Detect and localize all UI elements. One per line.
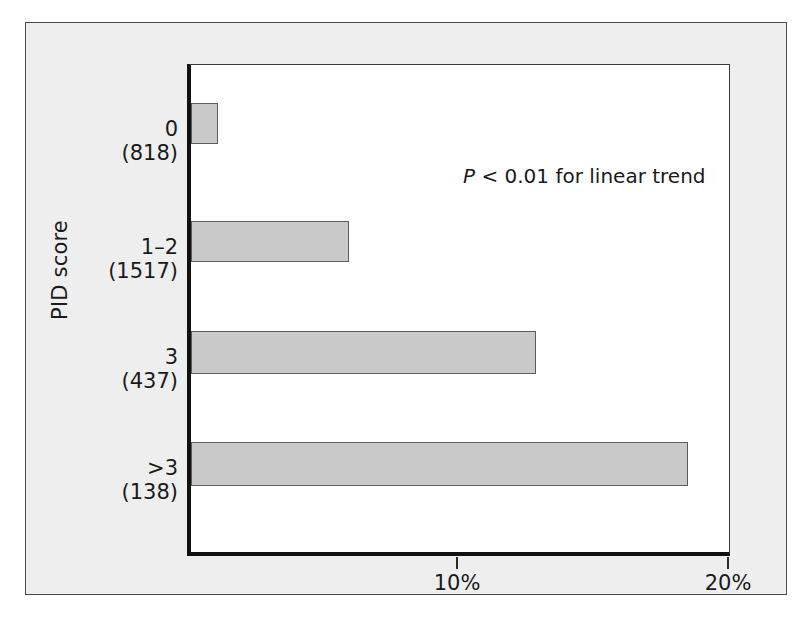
p-annotation-text: < 0.01 for linear trend	[475, 164, 705, 188]
bar-category-3	[191, 442, 688, 486]
category-count-3: (138)	[28, 481, 178, 505]
category-count-2: (437)	[28, 370, 178, 394]
bar-category-0	[191, 103, 218, 144]
p-symbol: P	[463, 164, 475, 188]
category-count-0: (818)	[28, 142, 178, 166]
x-axis-tick-label-20: 20%	[683, 571, 773, 595]
category-score-0: 0	[28, 118, 178, 142]
x-axis-tick-20	[727, 557, 729, 569]
category-count-1: (1517)	[28, 260, 178, 284]
bar-category-2	[191, 331, 536, 374]
x-axis-tick-label-10: 10%	[412, 571, 502, 595]
bar-category-1	[191, 221, 349, 262]
category-score-2: 3	[28, 346, 178, 370]
category-score-3: >3	[28, 457, 178, 481]
p-value-annotation: P < 0.01 for linear trend	[463, 164, 706, 188]
y-axis-category-label-3: >3 (138)	[28, 457, 178, 504]
category-score-1: 1–2	[28, 236, 178, 260]
y-axis-category-label-0: 0 (818)	[28, 118, 178, 165]
y-axis-category-label-1: 1–2 (1517)	[28, 236, 178, 283]
figure-panel: PID score 0 (818) 1–2 (1517) 3 (437) >3 …	[25, 22, 787, 595]
y-axis-category-label-2: 3 (437)	[28, 346, 178, 393]
plot-area: P < 0.01 for linear trend	[187, 64, 730, 556]
x-axis-tick-10	[456, 557, 458, 569]
